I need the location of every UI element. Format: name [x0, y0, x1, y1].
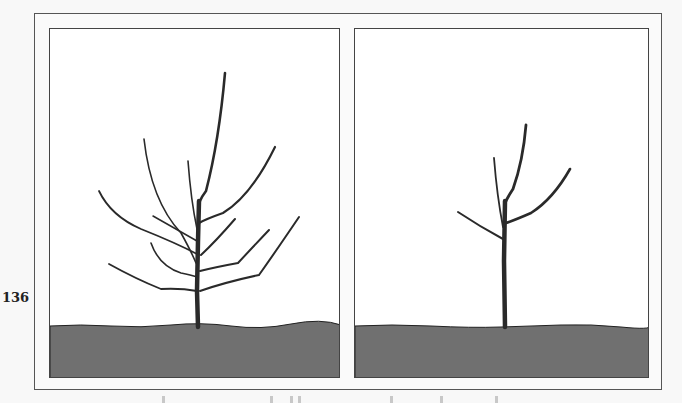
branch-leader [506, 125, 526, 201]
page-number: 136 [2, 290, 29, 305]
branch-right-lower [200, 230, 269, 271]
caption-cut-off [150, 396, 550, 403]
trunk [197, 201, 199, 327]
branch-leader [199, 73, 225, 203]
ground [355, 325, 649, 378]
panel-after-pruning [354, 28, 649, 378]
ground [50, 321, 340, 378]
branch-far-right [200, 217, 299, 291]
branch-small-upright [188, 161, 197, 229]
branch-left-scaffold [458, 212, 503, 239]
pruned-tree-illustration [355, 29, 649, 378]
branch-upright-shoot [494, 158, 503, 227]
panel-before-pruning [49, 28, 340, 378]
branch-lower-left [109, 264, 197, 291]
trunk [504, 201, 505, 327]
branch-left-mid [151, 243, 197, 277]
branch-far-left [99, 191, 197, 254]
unpruned-tree-illustration [50, 29, 340, 378]
branch-right-mid [201, 219, 235, 255]
branch-right-upper [199, 147, 275, 223]
